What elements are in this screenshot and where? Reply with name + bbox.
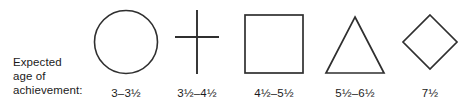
shape-column-square: 4½–5½ [236, 0, 312, 111]
expected-age-caption: Expected age of achievement: [13, 55, 91, 98]
caption-line-1: Expected [13, 55, 91, 69]
square-shape-container [236, 0, 312, 80]
caption-line-2: age of [13, 69, 91, 83]
age-label-triangle: 5½–6½ [317, 86, 393, 100]
circle-shape-container [88, 0, 164, 80]
age-label-diamond: 7½ [395, 86, 465, 100]
age-label-circle: 3–3½ [88, 86, 164, 100]
shape-column-circle: 3–3½ [88, 0, 164, 111]
shape-milestone-figure: Expected age of achievement: 3–3½ 3½–4½ … [0, 0, 467, 111]
cross-shape-container [165, 0, 229, 80]
diamond-icon [401, 13, 459, 71]
shape-column-cross: 3½–4½ [165, 0, 229, 111]
triangle-icon [324, 15, 386, 75]
shape-column-diamond: 7½ [395, 0, 465, 111]
age-label-cross: 3½–4½ [165, 86, 229, 100]
caption-line-3: achievement: [13, 83, 91, 97]
circle-icon [92, 8, 160, 76]
triangle-shape-container [317, 0, 393, 80]
age-label-square: 4½–5½ [236, 86, 312, 100]
cross-icon [169, 8, 225, 76]
shape-column-triangle: 5½–6½ [317, 0, 393, 111]
square-icon [243, 13, 305, 75]
diamond-shape-container [395, 0, 465, 80]
